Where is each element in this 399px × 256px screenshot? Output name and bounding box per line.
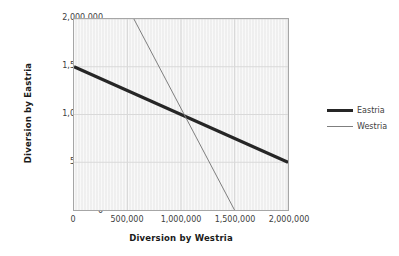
legend-line-swatch-westria <box>327 126 353 127</box>
legend-label-eastria: Eastria <box>357 106 385 115</box>
legend-item-westria[interactable]: Westria <box>327 119 397 133</box>
legend-line-swatch-eastria <box>327 109 353 112</box>
legend-label-westria: Westria <box>357 122 387 131</box>
plot-area <box>73 18 289 211</box>
x-axis-tick-label: 2,000,000 <box>249 215 329 224</box>
chart-legend: Eastria Westria <box>327 103 397 135</box>
chart-container: 2,000,000 1,500,000 1,000,000 500,000 0 … <box>0 0 399 256</box>
plot-svg <box>74 19 288 210</box>
legend-item-eastria[interactable]: Eastria <box>327 103 397 117</box>
y-axis-title: Diversion by Eastria <box>23 23 33 203</box>
x-axis-title: Diversion by Westria <box>73 233 289 243</box>
